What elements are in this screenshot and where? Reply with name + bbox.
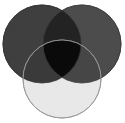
venn-diagram-figure [0, 0, 125, 123]
venn-diagram-canvas [0, 0, 125, 123]
